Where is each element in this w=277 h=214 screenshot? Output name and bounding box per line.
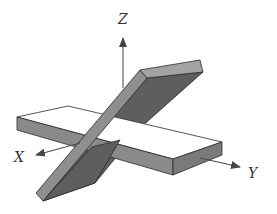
x-axis-label: X <box>13 149 25 165</box>
intersecting-plates-diagram: Z X Y <box>0 0 277 214</box>
y-axis: Y <box>200 158 259 181</box>
z-axis: Z <box>117 11 128 88</box>
z-axis-label: Z <box>117 11 128 27</box>
y-axis-label: Y <box>248 165 259 181</box>
